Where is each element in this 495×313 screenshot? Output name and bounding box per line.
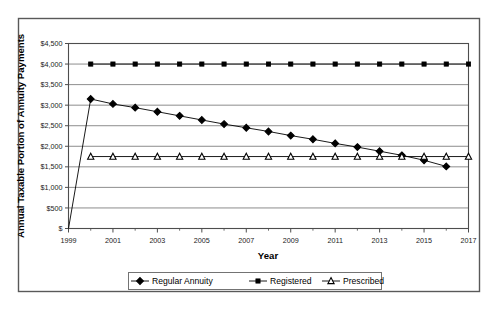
data-point-marker [289,62,293,66]
annuity-payments-line-chart: Annual Taxable Portion of Annuity Paymen… [0,0,495,313]
x-tick-label-2001: 2001 [105,236,121,245]
data-point-marker [111,62,115,66]
x-tick-label-2007: 2007 [238,236,254,245]
data-point-marker [266,62,270,66]
y-tick-label-3000: $3,000 [41,101,63,110]
y-tick-label-500: $500 [47,204,63,213]
x-tick-label-2011: 2011 [327,236,342,245]
y-tick-label-2500: $2,500 [41,121,63,130]
y-tick-label-1500: $1,500 [41,162,63,171]
y-tick-label-4000: $4,000 [41,60,63,69]
y-tick-label-2000: $2,000 [41,142,63,151]
y-tick-label-3500: $3,500 [41,80,63,89]
data-point-marker [178,62,182,66]
y-tick-label-1000: $1,000 [41,183,63,192]
chart-legend: Regular AnnuityRegisteredPrescribed [129,273,385,290]
data-point-marker [89,62,93,66]
data-point-marker [133,62,137,66]
data-point-marker [466,62,470,66]
x-tick-label-2009: 2009 [283,236,299,245]
data-point-marker [355,62,359,66]
x-tick-label-2003: 2003 [149,236,165,245]
data-point-marker [422,62,426,66]
chart-figure: Annual Taxable Portion of Annuity Paymen… [0,0,495,313]
x-tick-label-1999: 1999 [61,236,77,245]
data-point-marker [378,62,382,66]
data-point-marker [200,62,204,66]
y-axis-title-label: Annual Taxable Portion of Annuity Paymen… [15,34,26,238]
legend-marker-square-icon [256,279,260,283]
data-point-marker [244,62,248,66]
data-point-marker [400,62,404,66]
x-tick-label-2013: 2013 [372,236,388,245]
data-point-marker [333,62,337,66]
y-tick-label-0: $ [59,224,63,233]
x-tick-label-2005: 2005 [194,236,210,245]
x-axis-title-label: Year [258,250,279,261]
legend-label: Regular Annuity [152,276,213,286]
data-point-marker [155,62,159,66]
x-tick-label-2017: 2017 [461,236,477,245]
data-point-marker [444,62,448,66]
x-axis-title: Year [258,250,279,261]
y-tick-label-4500: $4,500 [41,39,63,48]
legend-label: Prescribed [343,276,384,286]
legend-label: Registered [270,276,312,286]
data-point-marker [311,62,315,66]
data-point-marker [222,62,226,66]
y-axis-title: Annual Taxable Portion of Annuity Paymen… [15,34,26,238]
x-tick-label-2015: 2015 [416,236,432,245]
